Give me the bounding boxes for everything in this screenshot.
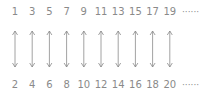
double-arrow-icon xyxy=(150,31,155,67)
double-arrow-icon xyxy=(167,31,172,67)
double-arrow-icon xyxy=(13,31,18,67)
double-arrow-icon xyxy=(133,31,138,67)
double-arrow-icon xyxy=(81,31,86,67)
double-arrow-icons xyxy=(0,0,215,98)
double-arrow-icon xyxy=(116,31,121,67)
double-arrow-icon xyxy=(64,31,69,67)
double-arrow-icon xyxy=(47,31,52,67)
double-arrow-icon xyxy=(30,31,35,67)
double-arrow-icon xyxy=(99,31,104,67)
